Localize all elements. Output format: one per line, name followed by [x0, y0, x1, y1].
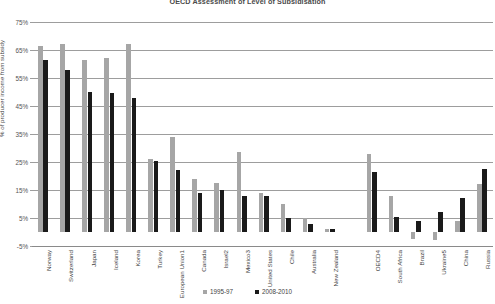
x-axis-label: Brazil: [418, 250, 425, 265]
y-tick-label: 65%: [15, 47, 28, 54]
bar-199597-Mexico3: [237, 152, 242, 232]
bar-20082010-Brazil: [416, 221, 421, 232]
legend-swatch: [203, 290, 207, 294]
x-axis-label: Chile: [288, 250, 295, 264]
x-axis-label: Switzerland: [67, 250, 74, 282]
x-axis-label: China: [462, 250, 469, 266]
gridline: [32, 78, 493, 79]
y-tick-mark: [30, 218, 32, 219]
x-axis-label: OECD4: [374, 250, 381, 271]
x-axis-label: New Zealand: [332, 250, 339, 286]
gridline: [32, 190, 493, 191]
bar-20082010-Iceland: [110, 93, 115, 232]
bar-20082010-UnitedStates: [264, 196, 269, 232]
gridline: [32, 106, 493, 107]
bar-199597-Ukraine5: [433, 232, 438, 240]
legend-label: 2008-2010: [262, 288, 292, 295]
y-tick-label: 5%: [19, 215, 28, 222]
y-tick-mark: [30, 22, 32, 23]
x-axis-label: Korea: [134, 250, 141, 267]
gridline: [32, 246, 493, 247]
bar-199597-Turkey: [148, 159, 153, 232]
y-tick-label: 25%: [15, 159, 28, 166]
y-axis-title: % of producer income from subsidy: [0, 40, 5, 137]
x-axis-label: Canada: [200, 250, 207, 272]
bar-199597-Japan: [82, 60, 87, 232]
bar-20082010-Chile: [286, 218, 291, 232]
y-tick-label: 45%: [15, 103, 28, 110]
chart-legend: 1995-972008-2010: [0, 288, 495, 295]
y-tick-label: -5%: [17, 243, 28, 250]
legend-label: 1995-97: [210, 288, 233, 295]
gridline: [32, 162, 493, 163]
bar-20082010-Israel2: [220, 190, 225, 232]
bar-20082010-China: [460, 198, 465, 232]
bar-199597-Brazil: [411, 232, 416, 239]
x-axis-label: Turkey: [156, 250, 163, 269]
x-axis-label: United States: [266, 250, 273, 287]
legend-item: 2008-2010: [255, 288, 292, 295]
x-axis-label: South Africa: [396, 250, 403, 283]
legend-swatch: [255, 290, 259, 294]
y-tick-label: 75%: [15, 19, 28, 26]
x-axis-label: Australia: [310, 250, 317, 274]
bar-20082010-Mexico3: [242, 196, 247, 232]
bar-20082010-Canada: [198, 193, 203, 232]
x-axis-label: Mexico3: [244, 250, 251, 273]
legend-item: 1995-97: [203, 288, 233, 295]
bar-199597-NewZealand: [325, 229, 330, 232]
plot-area: 75%65%55%45%35%25%15%5%-5%: [32, 22, 493, 246]
bar-20082010-Turkey: [154, 161, 159, 232]
bar-20082010-Norway: [43, 60, 48, 232]
bar-199597-Iceland: [104, 58, 109, 232]
gridline: [32, 50, 493, 51]
bar-199597-Norway: [38, 46, 43, 232]
bar-20082010-Switzerland: [65, 70, 70, 232]
bar-199597-Canada: [192, 179, 197, 232]
bar-20082010-Russia: [482, 169, 487, 232]
bar-199597-UnitedStates: [259, 193, 264, 232]
bar-199597-Switzerland: [60, 44, 65, 232]
gridline: [32, 22, 493, 23]
gridline: [32, 134, 493, 135]
y-tick-label: 15%: [15, 187, 28, 194]
bar-20082010-OECD4: [372, 172, 377, 232]
x-axis-label: Israel2: [222, 250, 229, 269]
bar-199597-OECD4: [367, 154, 372, 232]
bar-20082010-NewZealand: [330, 229, 335, 232]
x-axis-label: Russia: [484, 250, 491, 269]
y-tick-mark: [30, 78, 32, 79]
x-axis-label: Iceland: [112, 250, 119, 270]
bar-20082010-Japan: [88, 92, 93, 232]
bar-199597-Chile: [281, 204, 286, 232]
bar-20082010-SouthAfrica: [394, 217, 399, 232]
bar-199597-EuropeanUnion1: [170, 137, 175, 232]
y-tick-mark: [30, 162, 32, 163]
y-tick-label: 55%: [15, 75, 28, 82]
y-tick-mark: [30, 50, 32, 51]
x-axis-label: Norway: [45, 250, 52, 271]
y-tick-mark: [30, 106, 32, 107]
chart-title: OECD Assessment of Level of Subsidisatio…: [0, 0, 495, 6]
x-axis-label: Japan: [90, 250, 97, 267]
bar-199597-Australia: [303, 218, 308, 232]
y-tick-mark: [30, 190, 32, 191]
y-tick-label: 35%: [15, 131, 28, 138]
y-tick-mark: [30, 246, 32, 247]
bar-199597-Russia: [477, 184, 482, 232]
bar-20082010-Ukraine5: [438, 212, 443, 232]
bar-20082010-Korea: [132, 98, 137, 232]
x-axis-label: Ukraine5: [440, 250, 447, 275]
bar-199597-SouthAfrica: [389, 196, 394, 232]
bar-20082010-EuropeanUnion1: [176, 170, 181, 232]
bar-199597-Korea: [126, 44, 131, 232]
chart-container: OECD Assessment of Level of Subsidisatio…: [0, 0, 495, 304]
bar-199597-China: [455, 221, 460, 232]
bar-199597-Israel2: [214, 183, 219, 232]
y-tick-mark: [30, 134, 32, 135]
bar-20082010-Australia: [308, 224, 313, 232]
